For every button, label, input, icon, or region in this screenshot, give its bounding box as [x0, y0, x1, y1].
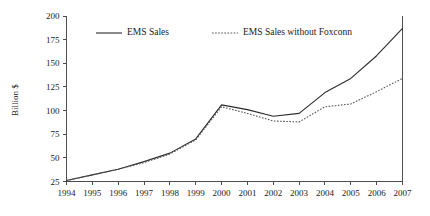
- x-axis-ticks: 1994199519961997199819992000200120022003…: [58, 182, 413, 198]
- legend-label: EMS Sales without Foxconn: [243, 27, 352, 37]
- chart-figure: 255075100125150175200 199419951996199719…: [0, 0, 430, 216]
- y-tick-label: 25: [51, 177, 61, 187]
- x-tick-label: 2007: [394, 188, 413, 198]
- x-tick-label: 2001: [238, 188, 256, 198]
- y-tick-label: 125: [46, 82, 60, 92]
- x-tick-label: 1995: [83, 188, 102, 198]
- x-tick-label: 2006: [368, 188, 387, 198]
- x-tick-label: 2002: [264, 188, 282, 198]
- legend-label: EMS Sales: [127, 27, 169, 37]
- y-tick-label: 200: [46, 11, 60, 21]
- x-tick-label: 2003: [290, 188, 309, 198]
- y-tick-label: 150: [46, 58, 60, 68]
- y-axis-title: Billion $: [10, 84, 20, 116]
- x-tick-label: 2005: [342, 188, 361, 198]
- x-tick-label: 2000: [213, 188, 232, 198]
- series-line-ems-sales: [67, 28, 403, 180]
- x-tick-label: 1994: [58, 188, 77, 198]
- x-tick-label: 2004: [316, 188, 335, 198]
- y-tick-label: 100: [46, 106, 60, 116]
- y-tick-label: 50: [51, 153, 61, 163]
- x-tick-label: 1997: [135, 188, 154, 198]
- y-tick-label: 175: [46, 35, 60, 45]
- series-line-ems-sales-without-foxconn: [67, 78, 403, 180]
- y-tick-label: 75: [51, 129, 61, 139]
- line-chart: 255075100125150175200 199419951996199719…: [0, 0, 430, 216]
- chart-legend: EMS SalesEMS Sales without Foxconn: [96, 27, 352, 37]
- x-tick-label: 1996: [109, 188, 128, 198]
- chart-series-group: [67, 28, 403, 180]
- x-tick-label: 1998: [161, 188, 180, 198]
- y-axis-ticks: 255075100125150175200: [46, 11, 67, 187]
- x-tick-label: 1999: [187, 188, 206, 198]
- chart-axes: [67, 16, 404, 182]
